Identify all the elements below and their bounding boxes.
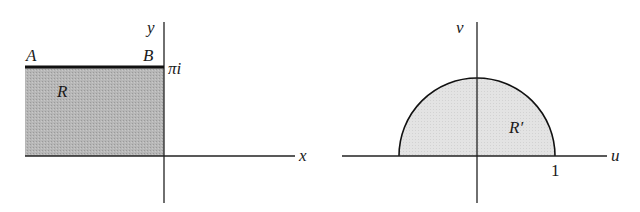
region-r-prime-label: R′ bbox=[508, 118, 523, 137]
region-r-label: R bbox=[56, 82, 68, 101]
x-axis-label: x bbox=[298, 146, 307, 165]
point-a-label: A bbox=[25, 46, 37, 65]
y-axis-label: y bbox=[145, 18, 155, 37]
tick-label-one: 1 bbox=[551, 161, 560, 180]
point-b-label: B bbox=[143, 46, 154, 65]
conformal-map-figure: x y A B πi R u v 1 R′ bbox=[0, 0, 640, 212]
left-panel-z-plane: x y A B πi R bbox=[25, 18, 307, 203]
right-panel-w-plane: u v 1 R′ bbox=[342, 18, 620, 203]
region-r-rectangle bbox=[25, 67, 164, 156]
pi-i-label: πi bbox=[168, 59, 182, 78]
v-axis-label: v bbox=[456, 18, 464, 37]
u-axis-label: u bbox=[611, 146, 620, 165]
